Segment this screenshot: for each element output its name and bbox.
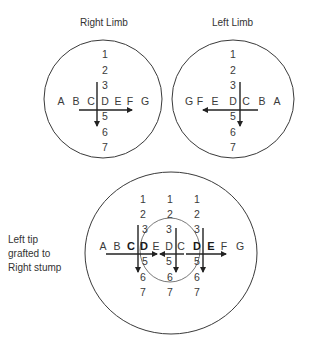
pd-label-5: 5: [230, 110, 236, 122]
ap-label-g: G: [185, 95, 193, 107]
ap-label-a: A: [57, 95, 64, 107]
col1-num-3: 3: [142, 223, 148, 235]
pd-label-1: 1: [102, 48, 108, 60]
left-limb-title: Left Limb: [212, 17, 254, 28]
graft-ap-d-bold: D: [140, 240, 148, 252]
graft-caption-line-2: grafted to: [8, 247, 78, 261]
col1-num-2: 2: [140, 208, 146, 220]
pd-label-2: 2: [102, 64, 108, 76]
pd-label-5: 5: [102, 110, 108, 122]
pd-label-3: 3: [230, 79, 236, 91]
graft-ap-f: F: [221, 240, 227, 252]
col2-num-3: 3: [166, 223, 172, 235]
pd-label-1: 1: [230, 48, 236, 60]
graft-ap-c: C: [177, 240, 185, 252]
graft-ap-d: D: [165, 240, 173, 252]
pd-label-7: 7: [102, 141, 108, 153]
col2-num-6: 6: [167, 271, 173, 283]
col3-num-1: 1: [194, 193, 200, 205]
ap-label-g: G: [141, 95, 149, 107]
graft-ap-e: E: [152, 240, 159, 252]
col2-num-2: 2: [167, 208, 173, 220]
ap-label-b: B: [258, 95, 265, 107]
col3-num-7: 7: [194, 286, 200, 298]
ap-label-e: E: [211, 95, 218, 107]
col3-num-3: 3: [194, 223, 200, 235]
right-limb-title: Right Limb: [80, 17, 128, 28]
graft-ap-e2-bold: E: [207, 240, 214, 252]
right-limb-panel: Right Limb 1 2 3 5 6 7 A B C D E F G: [44, 17, 162, 158]
graft-panel: 1 2 3 5 6 7 1 2 3 5 6 7 1 2 3 5 6 7 A B …: [85, 172, 257, 334]
col1-num-5: 5: [142, 255, 148, 267]
ap-label-f: F: [197, 95, 203, 107]
col3-num-6: 6: [194, 271, 200, 283]
left-limb-panel: Left Limb 1 2 3 5 6 7 G F E D C B A: [172, 17, 294, 158]
ap-label-e: E: [114, 95, 121, 107]
pd-label-6: 6: [230, 126, 236, 138]
ap-label-f: F: [127, 95, 133, 107]
graft-ap-g: G: [236, 240, 244, 252]
col1-num-6: 6: [140, 271, 146, 283]
pd-label-7: 7: [230, 141, 236, 153]
col2-num-5: 5: [166, 255, 172, 267]
ap-label-d: D: [101, 95, 109, 107]
ap-label-c: C: [242, 95, 250, 107]
ap-label-c: C: [87, 95, 95, 107]
pd-label-3: 3: [102, 79, 108, 91]
graft-ap-a: A: [99, 240, 106, 252]
graft-caption: Left tip grafted to Right stump: [8, 233, 78, 275]
graft-ap-d2-bold: D: [193, 240, 201, 252]
col3-num-5: 5: [194, 255, 200, 267]
ap-label-b: B: [72, 95, 79, 107]
col2-num-1: 1: [167, 193, 173, 205]
ap-label-d: D: [229, 95, 237, 107]
graft-ap-b: B: [113, 240, 120, 252]
graft-ap-c-bold: C: [127, 240, 135, 252]
col1-num-1: 1: [140, 193, 146, 205]
col2-num-7: 7: [167, 286, 173, 298]
pd-label-2: 2: [230, 64, 236, 76]
graft-diagram: Right Limb 1 2 3 5 6 7 A B C D E F G Lef…: [0, 0, 311, 346]
pd-label-6: 6: [102, 126, 108, 138]
ap-label-a: A: [273, 95, 280, 107]
col1-num-7: 7: [140, 286, 146, 298]
graft-caption-line-3: Right stump: [8, 261, 78, 275]
col3-num-2: 2: [194, 208, 200, 220]
graft-caption-line-1: Left tip: [8, 233, 78, 247]
